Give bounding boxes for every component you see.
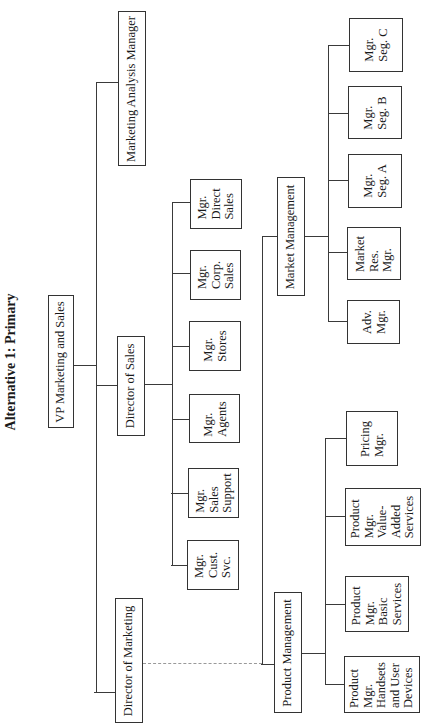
node-label: VP Marketing and Sales [54, 301, 68, 422]
node-label: Mgr. Seg. B [362, 96, 389, 129]
node-mgr-seg-a: Mgr. Seg. A [348, 154, 402, 208]
node-label: Marketing Analysis Manager [125, 16, 139, 162]
connector [96, 385, 117, 386]
node-mgr-seg-b: Mgr. Seg. B [348, 86, 402, 139]
connector [172, 202, 190, 203]
connector [74, 365, 96, 366]
node-label: Product Mgr. Basic Services [350, 583, 404, 625]
dashed-connector [143, 663, 262, 664]
node-mgr-seg-c: Mgr. Seg. C [349, 18, 403, 72]
connector [328, 45, 349, 46]
node-vp-marketing-sales: VP Marketing and Sales [48, 295, 74, 428]
connector [328, 252, 347, 253]
connector [261, 664, 275, 665]
node-director-of-marketing: Director of Marketing [115, 598, 143, 723]
connector [171, 565, 188, 566]
connector [328, 113, 348, 114]
connector [96, 82, 97, 693]
node-mgr-cust-svc: Mgr. Cust. Svc. [187, 540, 239, 590]
connector [172, 346, 190, 347]
connector [172, 202, 173, 566]
connector [325, 684, 344, 685]
node-label: Director of Marketing [122, 605, 136, 715]
node-market-res-mgr: Market Res. Mgr. [347, 227, 401, 280]
node-pm-handsets-user-devices: Product Mgr. Handsets and User Devices [344, 656, 420, 713]
node-mgr-agents: Mgr. Agents [189, 394, 240, 443]
node-label: Product Mgr. Handsets and User Devices [348, 662, 416, 708]
node-label: Market Res. Mgr. [354, 235, 395, 271]
node-mgr-direct-sales: Mgr. Direct Sales [190, 179, 242, 229]
node-label: Mgr. Sales Support [193, 473, 234, 513]
node-label: Director of Sales [124, 344, 138, 429]
connector [262, 236, 263, 664]
connector [145, 384, 172, 385]
node-mgr-stores: Mgr. Stores [189, 321, 241, 371]
node-label: Mgr. Cust. Svc. [193, 552, 234, 578]
connector [328, 180, 348, 181]
node-label: Mgr. Direct Sales [196, 188, 237, 219]
connector [96, 82, 118, 83]
node-pricing-mgr: Pricing Mgr. [346, 411, 398, 466]
node-mgr-sales-support: Mgr. Sales Support [188, 468, 239, 518]
node-label: Market Management [284, 184, 298, 288]
connector [325, 516, 345, 517]
node-market-management: Market Management [277, 177, 305, 296]
node-label: Mgr. Seg. A [362, 164, 389, 197]
connector [305, 236, 328, 237]
node-label: Product Management [281, 599, 295, 706]
node-label: Mgr. Corp. Sales [195, 261, 236, 289]
node-label: Product Mgr. Value- Added Services [349, 496, 417, 538]
node-pm-basic-services: Product Mgr. Basic Services [345, 576, 409, 632]
connector [172, 273, 190, 274]
connector [325, 438, 326, 684]
connector [325, 438, 346, 439]
connector [328, 45, 329, 322]
node-director-of-sales: Director of Sales [117, 336, 145, 436]
node-pm-value-added-services: Product Mgr. Value- Added Services [345, 488, 421, 546]
node-adv-mgr: Adv. Mgr. [347, 300, 400, 344]
node-label: Mgr. Stores [202, 330, 229, 361]
connector [171, 493, 189, 494]
node-label: Mgr. Agents [201, 401, 228, 436]
node-mgr-corp-sales: Mgr. Corp. Sales [190, 250, 241, 300]
connector [172, 419, 190, 420]
connector [262, 236, 277, 237]
chart-title: Alternative 1: Primary [3, 294, 19, 431]
connector [94, 692, 115, 693]
connector [325, 604, 345, 605]
node-label: Mgr. Seg. C [363, 28, 390, 61]
node-label: Adv. Mgr. [360, 310, 387, 334]
connector [328, 321, 347, 322]
node-marketing-analysis-manager: Marketing Analysis Manager [118, 11, 146, 166]
node-product-management: Product Management [274, 592, 302, 713]
node-label: Pricing Mgr. [359, 420, 386, 456]
connector [302, 653, 325, 654]
